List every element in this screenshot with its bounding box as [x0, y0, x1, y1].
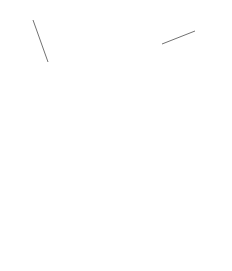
rna-leader-line: [162, 31, 195, 44]
protein-leader-line: [33, 20, 48, 62]
virus-diagram: [0, 0, 232, 271]
virus-illustration: [0, 0, 232, 271]
